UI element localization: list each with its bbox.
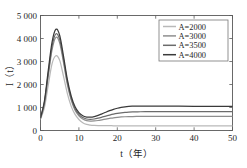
y-tick-label: 3 000 (17, 57, 38, 67)
plot-area: 0102030405001 0002 0003 0004 0005 000t（年… (4, 11, 238, 159)
legend-label-3: A=4000 (179, 51, 207, 60)
legend-label-2: A=3500 (179, 41, 207, 50)
line-chart: 0102030405001 0002 0003 0004 0005 000t（年… (0, 0, 247, 168)
x-axis-title: t（年） (120, 148, 153, 159)
y-tick-label: 0 (33, 126, 38, 136)
x-tick-label: 0 (38, 133, 43, 143)
x-tick-label: 40 (190, 133, 200, 143)
x-tick-label: 10 (74, 133, 84, 143)
y-tick-label: 4 000 (17, 34, 38, 44)
x-tick-label: 50 (228, 133, 238, 143)
y-tick-label: 1 000 (17, 103, 38, 113)
legend-label-1: A=3000 (179, 32, 207, 41)
x-tick-label: 30 (151, 133, 161, 143)
y-tick-label: 2 000 (17, 80, 38, 90)
legend-label-0: A=2000 (179, 23, 207, 32)
chart-figure: 0102030405001 0002 0003 0004 0005 000t（年… (0, 0, 247, 168)
y-tick-label: 5 000 (17, 11, 38, 21)
y-axis-title: I（t） (4, 60, 15, 86)
x-tick-label: 20 (113, 133, 123, 143)
